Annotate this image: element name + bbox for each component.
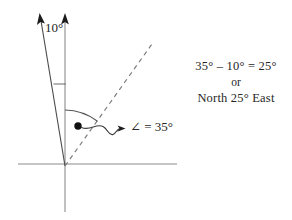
squiggly-pointer — [82, 126, 121, 135]
dashed-ray — [65, 44, 152, 166]
callout-dot — [74, 122, 81, 129]
ten-degree-label: 10° — [45, 20, 63, 36]
angle-value-label: ∠ = 35° — [130, 119, 173, 135]
conjunction-line: or — [182, 75, 290, 90]
equation-line: 35° – 10° = 25° — [182, 58, 290, 75]
tilted-ray — [41, 22, 65, 166]
angle-arc — [65, 110, 98, 121]
explanation-text-block: 35° – 10° = 25° or North 25° East — [182, 58, 290, 106]
diagram-canvas: 10° ∠ = 35° 35° – 10° = 25° or North 25°… — [0, 0, 292, 220]
bearing-angle-figure — [0, 0, 292, 220]
bearing-line: North 25° East — [182, 90, 290, 107]
